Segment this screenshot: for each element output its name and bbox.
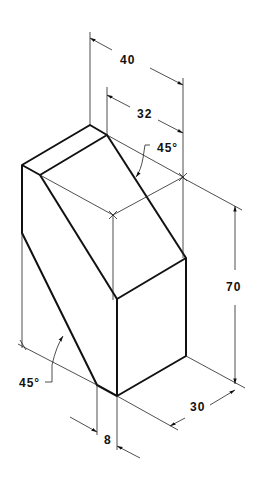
dim-32: 32 <box>137 107 152 121</box>
angle-bottom: 45° <box>19 376 40 390</box>
dim-8: 8 <box>104 433 112 447</box>
left-face-edge <box>22 165 117 396</box>
angle-top: 45° <box>157 141 178 155</box>
dim-70: 70 <box>226 280 241 294</box>
isometric-drawing: 40 32 45° 70 30 45° 8 <box>0 0 259 481</box>
dim-30: 30 <box>190 400 205 414</box>
dimension-lines <box>45 38 235 458</box>
top-face <box>22 125 107 175</box>
dim-40: 40 <box>120 53 135 67</box>
object-outline <box>22 125 186 396</box>
inclined-edge-front <box>40 175 117 299</box>
front-face <box>117 258 186 396</box>
